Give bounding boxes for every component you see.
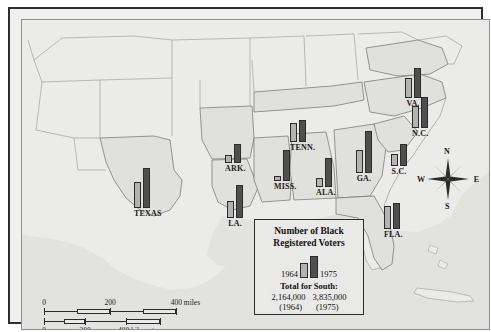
- bars-louisiana: [227, 172, 243, 218]
- state-label-virginia: VA.: [405, 99, 421, 108]
- bar-1964-georgia: [356, 150, 363, 173]
- bars-florida: [384, 183, 403, 229]
- bars-arkansas: [225, 117, 246, 163]
- compass-west-label: W: [417, 175, 425, 184]
- scale-kilometers-200: 200: [79, 326, 90, 330]
- bar-group-texas: TEXAS: [134, 162, 162, 218]
- legend-totals: 2,164,000 3,835,000: [259, 292, 359, 302]
- bar-1975-mississippi: [283, 150, 290, 181]
- bar-1975-louisiana: [236, 185, 243, 218]
- bars-georgia: [356, 127, 372, 173]
- compass-star-icon: [417, 148, 479, 210]
- bar-1964-virginia: [405, 78, 412, 98]
- legend-total-label: Total for South:: [259, 281, 359, 291]
- bar-group-florida: FLA.: [384, 183, 403, 239]
- compass-north-label: N: [444, 147, 450, 156]
- bars-alabama: [316, 141, 336, 187]
- bar-1975-florida: [393, 203, 400, 229]
- bar-group-arkansas: ARK.: [225, 117, 246, 173]
- state-label-south-carolina: S.C.: [391, 167, 407, 176]
- map-outer-frame: TEXAS ARK. LA.: [8, 7, 483, 324]
- compass-east-label: E: [474, 175, 479, 184]
- bar-1964-south-carolina: [391, 154, 398, 166]
- legend-swatch-1964: [300, 263, 308, 278]
- scale-kilometers-0: 0: [42, 326, 46, 330]
- map-inner-frame: TEXAS ARK. LA.: [21, 19, 490, 330]
- state-label-tennessee: TENN.: [290, 143, 315, 152]
- scale-miles-labels: 0 200 400 miles: [44, 298, 204, 307]
- bars-virginia: [405, 52, 421, 98]
- legend-year-1975: 1975: [320, 269, 337, 279]
- map-legend: Number of Black Registered Voters 1964 1…: [254, 219, 364, 315]
- bar-group-virginia: VA.: [405, 52, 421, 108]
- bar-1975-alabama: [325, 158, 332, 187]
- bars-texas: [134, 162, 162, 208]
- bar-1964-north-carolina: [412, 106, 419, 128]
- bar-1975-georgia: [365, 131, 372, 173]
- bars-tennessee: [290, 96, 315, 142]
- bar-1975-texas: [143, 168, 150, 208]
- bar-group-georgia: GA.: [356, 127, 372, 183]
- bar-1975-south-carolina: [400, 144, 407, 166]
- bar-1975-arkansas: [234, 144, 241, 163]
- bar-1964-arkansas: [225, 155, 232, 163]
- legend-year-1964: 1964: [281, 269, 298, 279]
- state-label-texas: TEXAS: [134, 209, 162, 218]
- bar-group-louisiana: LA.: [227, 172, 243, 228]
- legend-paren-1964: (1964): [279, 302, 302, 312]
- bar-1964-louisiana: [227, 201, 234, 218]
- scale-miles-200: 200: [104, 298, 115, 307]
- state-label-georgia: GA.: [356, 174, 372, 183]
- state-label-mississippi: MISS.: [274, 182, 297, 191]
- compass-rose: N S W E: [417, 148, 479, 210]
- historical-map-figure: TEXAS ARK. LA.: [0, 0, 491, 332]
- legend-total-1964: 2,164,000: [272, 292, 306, 302]
- bar-1964-alabama: [316, 178, 323, 187]
- state-label-north-carolina: N.C.: [412, 129, 428, 138]
- scale-kilometers-bar: [44, 318, 204, 325]
- map-scale: 0 200 400 miles: [44, 298, 204, 330]
- legend-total-years: (1964) (1975): [259, 302, 359, 312]
- bars-south-carolina: [391, 120, 407, 166]
- bar-1975-tennessee: [299, 120, 306, 142]
- legend-swatch-1975: [310, 256, 318, 278]
- scale-miles-0: 0: [42, 298, 46, 307]
- legend-key: 1964 1975: [259, 256, 359, 278]
- bar-1964-mississippi: [274, 176, 281, 181]
- bar-1975-north-carolina: [421, 97, 428, 128]
- state-label-alabama: ALA.: [316, 188, 336, 197]
- state-label-florida: FLA.: [384, 230, 403, 239]
- bar-1964-florida: [384, 206, 391, 229]
- bar-1964-tennessee: [290, 123, 297, 142]
- legend-total-1975: 3,835,000: [313, 292, 347, 302]
- legend-title-line1: Number of Black: [259, 225, 359, 237]
- scale-kilometers-400: 400 kilometers: [118, 326, 163, 330]
- scale-kilometers-labels: 0 200 400 kilometers: [44, 326, 204, 330]
- scale-miles-400: 400 miles: [171, 298, 200, 307]
- legend-paren-1975: (1975): [316, 302, 339, 312]
- bar-1964-texas: [134, 182, 141, 208]
- legend-title-line2: Registered Voters: [259, 237, 359, 249]
- bar-group-alabama: ALA.: [316, 141, 336, 197]
- bar-group-south-carolina: S.C.: [391, 120, 407, 176]
- bar-1975-virginia: [414, 68, 421, 98]
- bar-group-tennessee: TENN.: [290, 96, 315, 152]
- compass-south-label: S: [445, 202, 449, 211]
- scale-miles-bar: [44, 308, 204, 315]
- state-label-louisiana: LA.: [227, 219, 243, 228]
